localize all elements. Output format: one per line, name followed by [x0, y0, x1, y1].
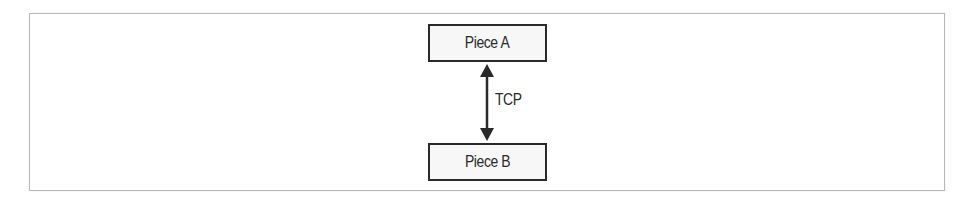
edge-label-tcp: TCP	[495, 90, 522, 110]
node-piece-b: Piece B	[428, 143, 547, 181]
node-piece-a: Piece A	[428, 24, 547, 62]
node-piece-b-label: Piece B	[465, 152, 510, 172]
node-piece-a-label: Piece A	[465, 33, 509, 53]
